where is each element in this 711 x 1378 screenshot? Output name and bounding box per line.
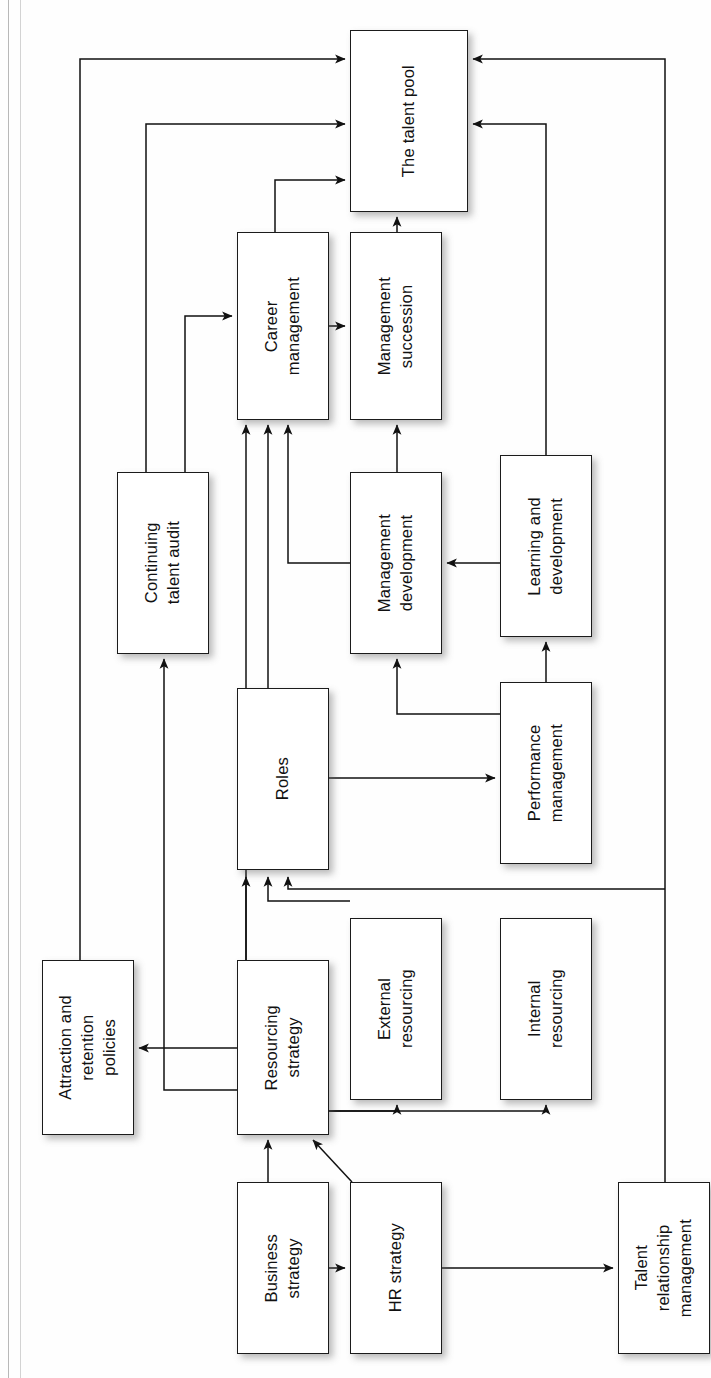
node-label-career-management: Career management bbox=[261, 277, 305, 375]
edge-continuing-audit-to-career bbox=[185, 316, 232, 472]
node-label-talent-pool: The talent pool bbox=[398, 65, 420, 177]
node-label-hr-strategy: HR strategy bbox=[385, 1223, 407, 1312]
node-label-talent-relationship: Talent relationship management bbox=[631, 1219, 696, 1317]
node-resourcing-strategy[interactable]: Resourcing strategy bbox=[237, 960, 329, 1135]
node-management-development[interactable]: Management development bbox=[350, 472, 442, 654]
node-external-resourcing[interactable]: External resourcing bbox=[350, 918, 442, 1100]
node-career-management[interactable]: Career management bbox=[237, 232, 329, 420]
edge-performance-to-mgmt-dev bbox=[397, 659, 500, 714]
node-label-learning-development: Learning and development bbox=[524, 497, 568, 596]
node-learning-development[interactable]: Learning and development bbox=[500, 455, 592, 637]
node-business-strategy[interactable]: Business strategy bbox=[237, 1182, 329, 1354]
node-internal-resourcing[interactable]: Internal resourcing bbox=[500, 918, 592, 1100]
edge-internal-to-roles bbox=[288, 877, 665, 889]
node-management-succession[interactable]: Management succession bbox=[350, 232, 442, 420]
node-continuing-talent-audit[interactable]: Continuing talent audit bbox=[117, 472, 209, 654]
node-talent-relationship[interactable]: Talent relationship management bbox=[618, 1182, 710, 1354]
node-label-management-development: Management development bbox=[374, 514, 418, 612]
node-label-attraction-retention: Attraction and retention policies bbox=[55, 995, 120, 1100]
node-label-internal-resourcing: Internal resourcing bbox=[524, 969, 568, 1048]
node-roles[interactable]: Roles bbox=[237, 688, 329, 870]
node-label-resourcing-strategy: Resourcing strategy bbox=[261, 1005, 305, 1090]
edge-mgmt-dev-to-career bbox=[288, 425, 350, 563]
node-talent-pool[interactable]: The talent pool bbox=[350, 30, 468, 212]
node-label-roles: Roles bbox=[272, 757, 294, 800]
edge-resourcing-to-internal bbox=[310, 1105, 546, 1135]
node-hr-strategy[interactable]: HR strategy bbox=[350, 1182, 442, 1354]
node-label-continuing-talent-audit: Continuing talent audit bbox=[141, 521, 185, 604]
diagram-page: The talent poolCareer managementManageme… bbox=[0, 0, 711, 1378]
edge-resourcing-to-audit bbox=[164, 659, 237, 1090]
node-label-performance-management: Performance management bbox=[524, 724, 568, 822]
node-performance-management[interactable]: Performance management bbox=[500, 682, 592, 864]
edge-learning-to-pool bbox=[473, 124, 546, 455]
node-label-external-resourcing: External resourcing bbox=[374, 969, 418, 1048]
node-attraction-retention[interactable]: Attraction and retention policies bbox=[42, 960, 134, 1135]
edge-hr-to-resourcing bbox=[313, 1140, 352, 1182]
node-label-management-succession: Management succession bbox=[374, 277, 418, 375]
edge-career-to-pool bbox=[275, 180, 345, 232]
node-label-business-strategy: Business strategy bbox=[261, 1234, 305, 1303]
